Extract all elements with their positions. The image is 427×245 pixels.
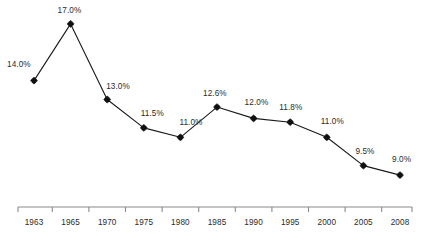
data-point-label: 9.5% — [355, 148, 374, 156]
data-point-label: 12.0% — [245, 99, 269, 107]
data-point-label: 11.5% — [141, 110, 164, 118]
data-point-label: 13.0% — [106, 83, 130, 91]
line-chart: 14.0%17.0%13.0%11.5%11.0%12.6%12.0%11.8%… — [0, 0, 427, 245]
x-axis-category-label: 2005 — [354, 219, 373, 227]
x-axis-category-label: 1965 — [61, 219, 80, 227]
data-point-marker — [31, 77, 38, 84]
x-axis-category-label: 1995 — [281, 219, 300, 227]
data-point-label: 11.0% — [321, 118, 344, 126]
data-point-marker — [287, 119, 294, 126]
x-axis-category-label: 1985 — [208, 219, 227, 227]
chart-plot-area — [0, 0, 427, 245]
x-axis-category-label: 1975 — [134, 219, 153, 227]
x-axis-category-label: 1970 — [98, 219, 117, 227]
series-markers-group — [31, 21, 404, 179]
data-point-marker — [397, 172, 404, 179]
x-axis-category-label: 1963 — [25, 219, 44, 227]
data-point-label: 11.8% — [279, 104, 302, 112]
x-axis-category-label: 1980 — [171, 219, 190, 227]
x-axis-category-label: 2000 — [317, 219, 336, 227]
x-axis-category-label: 1990 — [244, 219, 263, 227]
data-point-label: 17.0% — [58, 7, 82, 15]
data-point-label: 14.0% — [7, 61, 31, 69]
data-point-label: 12.6% — [203, 90, 227, 98]
x-axis-group — [18, 207, 412, 212]
series-line — [34, 24, 400, 175]
x-axis-category-label: 2008 — [391, 219, 410, 227]
data-point-label: 11.0% — [179, 119, 202, 127]
data-point-label: 9.0% — [392, 156, 411, 164]
data-point-marker — [250, 115, 257, 122]
series-line-group — [34, 24, 400, 175]
data-point-marker — [67, 21, 74, 28]
